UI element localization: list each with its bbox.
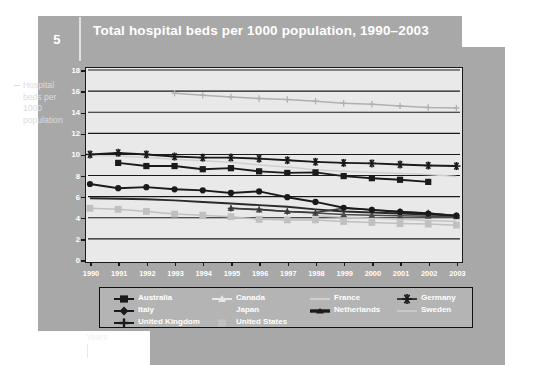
legend-marker-icon: [112, 291, 138, 303]
y-tick-label: 4: [60, 214, 80, 223]
legend-label: United States: [236, 317, 287, 326]
legend-item-japan[interactable]: Japan: [210, 303, 259, 315]
y-tick-label: 2: [60, 235, 80, 244]
legend-label: Canada: [236, 293, 265, 302]
y-tick-label: 0: [60, 256, 80, 265]
x-tick-label: 1992: [132, 269, 162, 278]
legend-item-united-states[interactable]: United States: [210, 315, 287, 327]
x-tick-mark: [203, 262, 204, 266]
x-tick-label: 1993: [161, 269, 191, 278]
legend-marker-icon: [395, 291, 421, 303]
legend-row: ItalyJapanNetherlandsSweden: [106, 303, 466, 315]
y-tick-label: 18: [60, 66, 80, 75]
figure-number: 5: [38, 22, 76, 56]
legend-marker-icon: [308, 303, 334, 315]
y-tick-mark: [81, 197, 86, 198]
legend-item-italy[interactable]: Italy: [112, 303, 154, 315]
page-title: Total hospital beds per 1000 population,…: [93, 23, 429, 38]
legend-label: Germany: [421, 293, 456, 302]
x-tick-mark: [372, 262, 373, 266]
legend-item-france[interactable]: France: [308, 291, 360, 303]
legend-label: Japan: [236, 305, 259, 314]
x-tick-mark: [90, 262, 91, 266]
x-tick-mark: [147, 262, 148, 266]
x-tick-mark: [288, 262, 289, 266]
x-tick-mark: [457, 262, 458, 266]
series-japan: [171, 90, 459, 111]
x-tick-label: 1991: [104, 269, 134, 278]
legend-item-sweden[interactable]: Sweden: [395, 303, 451, 315]
x-tick-mark: [231, 262, 232, 266]
x-tick-label: 1995: [217, 269, 247, 278]
legend-item-australia[interactable]: Australia: [112, 291, 172, 303]
chart-plot-area: [85, 67, 463, 263]
x-tick-label: 1999: [330, 269, 360, 278]
legend-item-united-kingdom[interactable]: United Kingdom: [112, 315, 200, 327]
x-tick-label: 2001: [386, 269, 416, 278]
legend-label: Italy: [138, 305, 154, 314]
x-tick-label: 1997: [273, 269, 303, 278]
legend-item-germany[interactable]: Germany: [395, 291, 456, 303]
x-tick-label: 2002: [414, 269, 444, 278]
x-tick-label: 1990: [76, 269, 106, 278]
y-tick-mark: [81, 218, 86, 219]
y-tick-mark: [81, 155, 86, 156]
legend-label: Sweden: [421, 305, 451, 314]
y-tick-label: 8: [60, 172, 80, 181]
x-tick-mark: [344, 262, 345, 266]
y-tick-label: 14: [60, 108, 80, 117]
x-tick-mark: [259, 262, 260, 266]
y-tick-mark: [81, 91, 86, 92]
x-tick-mark: [175, 262, 176, 266]
x-tick-label: 2003: [442, 269, 472, 278]
y-tick-label: 12: [60, 129, 80, 138]
y-tick-mark: [81, 260, 86, 261]
x-tick-mark: [400, 262, 401, 266]
legend-marker-icon: [210, 291, 236, 303]
legend-row: United KingdomUnited States: [106, 315, 466, 327]
y-tick-label: 16: [60, 87, 80, 96]
legend-label: France: [334, 293, 360, 302]
legend-item-canada[interactable]: Canada: [210, 291, 265, 303]
y-tick-mark: [81, 70, 86, 71]
x-axis-caption: Years: [86, 332, 108, 342]
legend-marker-icon: [308, 291, 334, 303]
legend-marker-icon: [395, 303, 421, 315]
y-tick-label: 6: [60, 193, 80, 202]
legend-marker-icon: [112, 315, 138, 327]
y-tick-mark: [81, 239, 86, 240]
y-tick-mark: [81, 176, 86, 177]
legend-row: AustraliaCanadaFranceGermany: [106, 291, 466, 303]
series-germany: [86, 149, 460, 170]
legend-label: Netherlands: [334, 305, 380, 314]
x-caption-tick: [87, 344, 88, 358]
legend-marker-icon: [112, 303, 138, 315]
chart-series-layer: [86, 68, 461, 261]
series-united-states: [87, 205, 460, 229]
x-tick-mark: [316, 262, 317, 266]
x-tick-label: 1998: [301, 269, 331, 278]
legend-label: Australia: [138, 293, 172, 302]
chart-legend: AustraliaCanadaFranceGermanyItalyJapanNe…: [99, 287, 473, 328]
background-panel-footer: [150, 331, 505, 365]
legend-label: United Kingdom: [138, 317, 200, 326]
y-tick-mark: [81, 134, 86, 135]
legend-marker-icon: [210, 315, 236, 327]
y-tick-mark: [81, 113, 86, 114]
legend-marker-icon: [210, 303, 236, 315]
legend-item-netherlands[interactable]: Netherlands: [308, 303, 380, 315]
y-tick-label: 10: [60, 150, 80, 159]
x-tick-label: 2000: [358, 269, 388, 278]
x-tick-mark: [429, 262, 430, 266]
y-caption-dash: [14, 85, 20, 86]
x-tick-mark: [118, 262, 119, 266]
x-tick-label: 1996: [245, 269, 275, 278]
x-tick-label: 1994: [189, 269, 219, 278]
header-divider: [79, 17, 81, 61]
